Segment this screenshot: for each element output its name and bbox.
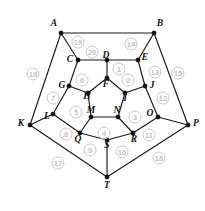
graph-vertex-M[interactable] — [89, 115, 93, 119]
graph-vertex-G[interactable] — [67, 84, 71, 88]
face-label-8: 8 — [60, 128, 73, 141]
face-label-3: 3 — [129, 111, 142, 124]
face-label-16: 16 — [153, 152, 166, 165]
diagram-canvas: ABCDEFGHIJKLMNOPQRST 1234567891011121314… — [0, 0, 205, 211]
graph-vertex-C[interactable] — [76, 58, 80, 62]
face-label-13: 13 — [149, 66, 162, 79]
graph-edge-RS — [107, 133, 133, 140]
graph-vertex-A[interactable] — [59, 31, 63, 35]
graph-edge-HM — [88, 93, 91, 117]
graph-vertex-B[interactable] — [152, 31, 156, 35]
graph-edge-BE — [138, 33, 154, 60]
graph-edge-FH — [88, 78, 107, 93]
graph-vertex-O[interactable] — [156, 115, 160, 119]
vertices-group — [28, 31, 190, 179]
graph-edge-IJ — [125, 86, 145, 93]
graph-vertex-D[interactable] — [105, 58, 109, 62]
graph-vertex-E[interactable] — [136, 58, 140, 62]
graph-edge-IN — [118, 93, 125, 117]
graph-vertex-T[interactable] — [105, 175, 109, 179]
face-label-9: 9 — [84, 144, 97, 157]
face-label-2: 2 — [122, 74, 135, 87]
graph-svg — [0, 0, 205, 211]
face-label-7: 7 — [47, 92, 60, 105]
graph-vertex-J[interactable] — [143, 84, 147, 88]
graph-edge-MQ — [80, 117, 91, 133]
face-label-15: 15 — [172, 67, 185, 80]
face-label-18: 18 — [27, 68, 40, 81]
graph-edge-EJ — [138, 60, 145, 86]
graph-edge-BP — [154, 33, 188, 125]
graph-vertex-P[interactable] — [186, 123, 190, 127]
graph-vertex-N[interactable] — [116, 115, 120, 119]
graph-vertex-F[interactable] — [105, 76, 109, 80]
graph-vertex-R[interactable] — [131, 131, 135, 135]
face-label-4: 4 — [98, 127, 111, 140]
face-label-10: 10 — [116, 146, 129, 159]
graph-vertex-L[interactable] — [51, 112, 55, 116]
face-label-5: 5 — [70, 106, 83, 119]
graph-edge-GH — [69, 86, 88, 93]
graph-vertex-Q[interactable] — [78, 131, 82, 135]
face-label-19: 19 — [72, 36, 85, 49]
face-label-20: 20 — [86, 46, 99, 59]
face-label-6: 6 — [76, 74, 89, 87]
graph-vertex-H[interactable] — [86, 91, 90, 95]
graph-edge-JO — [145, 86, 158, 117]
graph-vertex-K[interactable] — [28, 123, 32, 127]
graph-vertex-I[interactable] — [123, 91, 127, 95]
graph-edge-OP — [158, 117, 188, 125]
face-label-14: 14 — [125, 38, 138, 51]
face-label-12: 12 — [157, 92, 170, 105]
face-label-11: 11 — [143, 129, 156, 142]
face-label-17: 17 — [52, 157, 65, 170]
